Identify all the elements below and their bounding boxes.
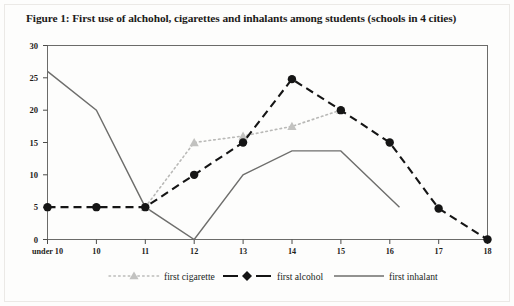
x-tick-label-16: 16 bbox=[386, 247, 394, 256]
legend-swatch-cigarette-icon bbox=[108, 270, 160, 282]
data-point-marker bbox=[190, 171, 198, 179]
x-tick-label-11: 11 bbox=[141, 247, 149, 256]
line-chart: 30 25 20 15 10 5 0 under 10 bbox=[0, 0, 514, 270]
x-tick-label-18: 18 bbox=[483, 247, 491, 256]
legend-label-first-inhalant: first inhalant bbox=[389, 271, 438, 282]
data-point-marker bbox=[434, 204, 442, 212]
data-point-marker bbox=[92, 203, 100, 211]
x-tick-label-under-10: under 10 bbox=[32, 247, 63, 256]
legend-swatch-inhalant-icon bbox=[333, 270, 385, 282]
data-point-marker bbox=[288, 75, 296, 83]
data-point-marker bbox=[43, 203, 51, 211]
chart-plot-area: 30 25 20 15 10 5 0 under 10 bbox=[0, 0, 514, 270]
figure-page: Figure 1: First use of alchohol, cigaret… bbox=[0, 0, 514, 306]
legend-label-first-alcohol: first alcohol bbox=[277, 271, 323, 282]
legend-label-first-cigarette: first cigarette bbox=[164, 271, 215, 282]
y-tick-label-0: 0 bbox=[34, 235, 38, 245]
data-point-marker bbox=[141, 203, 149, 211]
y-tick-label-30: 30 bbox=[29, 41, 38, 51]
legend-item-first-cigarette[interactable]: first cigarette bbox=[108, 268, 215, 284]
data-point-marker bbox=[337, 106, 345, 114]
legend-item-first-inhalant[interactable]: first inhalant bbox=[333, 268, 438, 284]
chart-legend: first cigarette first alcohol first inha… bbox=[0, 268, 514, 294]
x-tick-label-14: 14 bbox=[288, 247, 296, 256]
plot-frame bbox=[48, 46, 488, 240]
y-tick-label-5: 5 bbox=[34, 202, 38, 212]
x-tick-label-13: 13 bbox=[239, 247, 247, 256]
x-tick-label-12: 12 bbox=[190, 247, 198, 256]
y-tick-label-25: 25 bbox=[29, 73, 38, 83]
legend-item-first-alcohol[interactable]: first alcohol bbox=[221, 268, 323, 284]
legend-swatch-alcohol-icon bbox=[221, 270, 273, 282]
data-point-marker bbox=[239, 138, 247, 146]
y-tick-label-20: 20 bbox=[29, 105, 38, 115]
y-tick-label-15: 15 bbox=[29, 138, 38, 148]
data-point-marker bbox=[386, 138, 394, 146]
data-point-marker bbox=[483, 235, 491, 243]
y-axis: 30 25 20 15 10 5 0 bbox=[29, 41, 47, 245]
y-tick-label-10: 10 bbox=[29, 170, 38, 180]
x-axis: under 10 10 11 12 13 14 15 16 17 18 bbox=[32, 240, 492, 257]
x-tick-label-15: 15 bbox=[337, 247, 345, 256]
x-tick-label-10: 10 bbox=[92, 247, 100, 256]
x-tick-label-17: 17 bbox=[435, 247, 443, 256]
